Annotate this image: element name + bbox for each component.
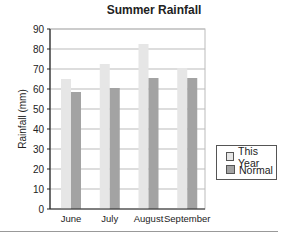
y-tick-label: 40 — [33, 124, 45, 135]
y-tick-label: 80 — [33, 44, 45, 55]
x-tick-label: June — [61, 213, 82, 224]
y-axis-label: Rainfall (mm) — [17, 89, 28, 148]
y-tick-labels: 0102030405060708090 — [33, 24, 45, 215]
bar-this-year — [100, 64, 110, 209]
x-tick-label: July — [101, 213, 118, 224]
legend-item-this-year: This Year — [226, 150, 276, 163]
bar-this-year — [61, 79, 71, 209]
legend: This Year Normal — [216, 145, 277, 180]
x-tick-label: September — [164, 213, 210, 224]
y-tick-label: 0 — [38, 204, 44, 215]
y-tick-label: 10 — [33, 184, 45, 195]
y-tick-label: 70 — [33, 64, 45, 75]
bottom-divider — [0, 231, 278, 232]
bar-this-year — [177, 68, 187, 209]
y-tick-label: 50 — [33, 104, 45, 115]
x-tick-label: August — [134, 213, 164, 224]
legend-label: Normal — [239, 164, 273, 176]
bar-normal — [110, 88, 120, 209]
bar-chart: 0102030405060708090 JuneJulyAugustSeptem… — [0, 0, 294, 233]
bar-this-year — [139, 44, 149, 209]
legend-swatch-normal — [226, 165, 235, 174]
y-tick-label: 30 — [33, 144, 45, 155]
legend-swatch-this-year — [226, 152, 234, 161]
bar-normal — [71, 92, 81, 209]
bar-normal — [187, 78, 197, 209]
y-tick-label: 20 — [33, 164, 45, 175]
x-tick-labels: JuneJulyAugustSeptember — [61, 213, 211, 224]
bar-normal — [149, 78, 159, 209]
y-tick-label: 60 — [33, 84, 45, 95]
y-tick-label: 90 — [33, 24, 45, 35]
legend-item-normal: Normal — [226, 163, 276, 176]
